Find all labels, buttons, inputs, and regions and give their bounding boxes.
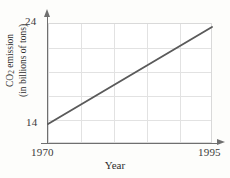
y-axis-title-line1: CO2 emission: [5, 7, 18, 113]
x-axis-tick-label-left: 1970: [31, 146, 54, 158]
y-axis-title-emission: emission: [5, 34, 15, 70]
series-polyline: [48, 27, 212, 124]
chart-figure: 24 14 1970 1995 CO2 emission (in billion…: [0, 0, 230, 178]
y-axis-title-subscript: 2: [7, 70, 16, 74]
y-axis-title: CO2 emission (in billions of tons): [5, 7, 30, 113]
y-axis-title-co: CO: [5, 74, 15, 87]
x-axis-tick-label-right: 1995: [198, 146, 221, 158]
y-axis-tick-label-bottom: 14: [26, 116, 37, 128]
x-axis-title: Year: [0, 159, 230, 171]
y-axis-title-line2: (in billions of tons): [18, 7, 30, 113]
